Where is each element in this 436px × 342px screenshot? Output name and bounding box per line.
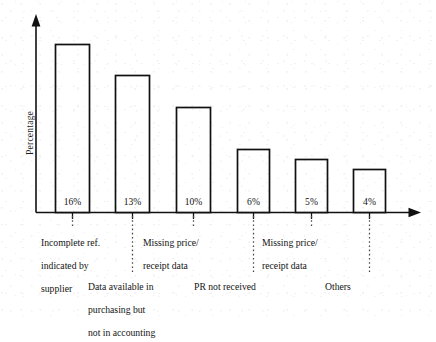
bar-2 <box>116 76 150 213</box>
category-label-3-line-1: Missing price/ <box>143 237 235 248</box>
category-label-2-line-1: Data available in <box>88 281 188 292</box>
category-label-4-line-1: PR not received <box>194 281 288 292</box>
bar-1 <box>56 45 90 213</box>
category-label-5-line-1: Missing price/ <box>262 237 354 248</box>
bar-value-3: 10% <box>185 196 203 207</box>
category-label-6: Others <box>325 270 385 304</box>
bar-group <box>56 45 386 213</box>
tick-group <box>73 213 370 220</box>
y-axis-label: Percentage <box>24 111 35 155</box>
bar-value-2: 13% <box>124 196 142 207</box>
bar-value-6: 4% <box>363 196 376 207</box>
category-label-2-line-2: purchasing but <box>88 304 188 315</box>
category-label-2-line-3: not in accounting <box>88 327 188 338</box>
category-label-1-line-1: Incomplete ref. <box>41 237 133 248</box>
category-label-6-line-1: Others <box>325 281 385 292</box>
bar-value-4: 6% <box>247 196 260 207</box>
category-label-2: Data available in purchasing but not in … <box>88 270 188 342</box>
bar-value-5: 5% <box>305 196 318 207</box>
bar-value-1: 16% <box>64 196 82 207</box>
category-label-4: PR not received <box>194 270 288 304</box>
bar-value-group: 16% 13% 10% 6% 5% 4% <box>64 196 376 207</box>
